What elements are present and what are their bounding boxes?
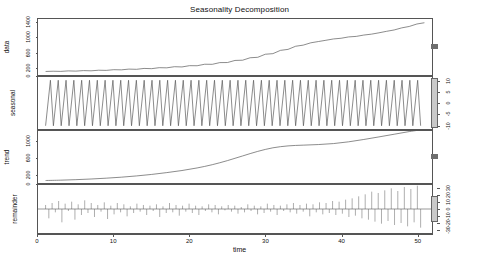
y-axis-seasonal: -10-50510	[440, 76, 456, 130]
x-tick-mark	[265, 234, 266, 237]
x-tick-label: 30	[252, 238, 278, 244]
row-label-trend: trend	[0, 130, 14, 184]
x-axis-line	[37, 234, 433, 235]
y-tick-label-remainder: 10	[440, 198, 456, 206]
y-tick-label-remainder: -10	[440, 212, 456, 220]
y-tick-mark-remainder	[437, 223, 440, 224]
y-tick-label-trend: 200	[20, 171, 36, 179]
scale-bar-remainder	[431, 196, 438, 222]
y-tick-label-seasonal: 0	[440, 99, 456, 107]
y-tick-label-remainder: 0	[440, 205, 456, 213]
y-tick-label-trend: 1000	[20, 137, 36, 145]
y-tick-label-remainder: -20	[440, 219, 456, 227]
x-tick-label: 0	[24, 238, 50, 244]
y-tick-label-seasonal: 10	[440, 77, 456, 85]
x-tick-label: 20	[176, 238, 202, 244]
row-label-data: data	[0, 18, 14, 76]
x-tick-mark	[113, 234, 114, 237]
y-axis-trend: 02006001000	[20, 130, 36, 184]
y-tick-label-trend: 0	[20, 180, 36, 188]
x-tick-label: 40	[329, 238, 355, 244]
scale-bar-data	[431, 44, 438, 49]
row-label-remainder-text: remainder	[0, 194, 40, 223]
y-tick-mark-remainder	[437, 230, 440, 231]
y-tick-label-data: 200	[20, 64, 36, 72]
y-tick-label-data: 1400	[20, 18, 36, 26]
x-tick-label: 10	[100, 238, 126, 244]
row-label-remainder: remainder	[0, 184, 14, 234]
chart-title: Seasonality Decomposition	[0, 5, 479, 14]
x-tick-mark	[418, 234, 419, 237]
y-axis-remainder: -30-20-100102030	[440, 184, 456, 234]
scale-bar-seasonal	[431, 78, 438, 128]
panel-trend	[37, 130, 433, 184]
seasonal-series-line	[46, 80, 421, 126]
y-tick-label-data: 0	[20, 72, 36, 80]
trend-series-line	[46, 131, 425, 181]
row-label-seasonal: seasonal	[0, 76, 14, 130]
row-label-seasonal-text: seasonal	[0, 90, 40, 116]
y-tick-label-data: 600	[20, 49, 36, 57]
x-tick-mark	[189, 234, 190, 237]
y-tick-label-data: 1000	[20, 33, 36, 41]
x-tick-mark	[342, 234, 343, 237]
remainder-stems	[46, 186, 421, 228]
y-tick-label-seasonal: 5	[440, 88, 456, 96]
panel-data	[37, 18, 433, 76]
y-tick-label-remainder: -30	[440, 226, 456, 234]
scale-bar-trend	[431, 154, 438, 159]
y-tick-label-seasonal: -5	[440, 110, 456, 118]
panel-stack	[37, 18, 433, 234]
y-tick-label-remainder: 30	[440, 184, 456, 192]
y-tick-mark-remainder	[437, 188, 440, 189]
x-tick-mark	[37, 234, 38, 237]
panel-remainder	[37, 184, 433, 234]
y-tick-label-remainder: 20	[440, 191, 456, 199]
y-axis-data: 020060010001400	[20, 18, 36, 76]
x-axis: 01020304050	[37, 234, 433, 246]
y-tick-label-seasonal: -10	[440, 122, 456, 130]
x-axis-title: time	[0, 246, 479, 253]
stl-decomposition-figure: Seasonality Decomposition data seasonal …	[0, 0, 479, 262]
y-tick-label-trend: 600	[20, 154, 36, 162]
panel-seasonal	[37, 76, 433, 130]
data-series-line	[46, 23, 425, 72]
x-tick-label: 50	[405, 238, 431, 244]
